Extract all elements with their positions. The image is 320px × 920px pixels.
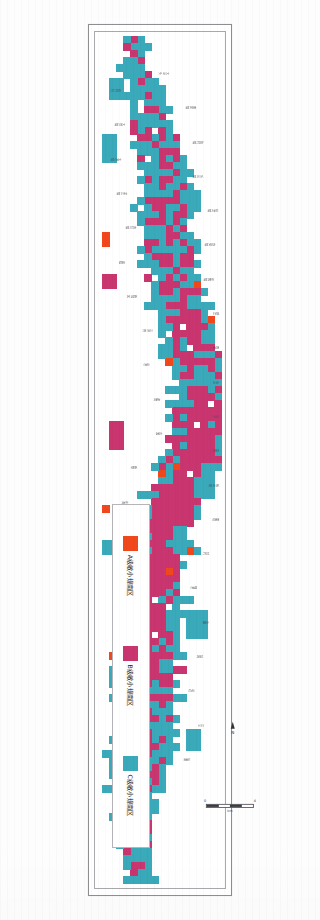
map-cell [102, 281, 110, 289]
map-cell [102, 750, 110, 758]
map-cell [165, 435, 173, 443]
map-cell [102, 547, 110, 555]
map-cell [144, 148, 152, 156]
map-cell [137, 260, 145, 268]
map-cell [144, 491, 152, 499]
map-cell [137, 491, 145, 499]
map-cell [137, 92, 145, 100]
map-cell [116, 64, 124, 72]
legend-label-grade-a: A级敏小规南区 [127, 555, 136, 597]
map-cell [137, 176, 145, 184]
map-place-label: 逢简 [154, 397, 161, 400]
map-cell [151, 785, 159, 793]
legend-item-grade-a: A级敏小规南区 [124, 536, 139, 597]
map-cell [165, 323, 173, 331]
map-legend: C级敏小规南区 B级敏小规南区 A级敏小规南区 [112, 504, 150, 848]
map-place-label: 容桂 [119, 260, 126, 263]
map-place-label: 沙滘 [143, 363, 150, 366]
map-cell [158, 785, 166, 793]
map-plot-area: 大沙头石井村南庄镇大良镇陈村镇北滘镇乐从镇龙江镇勒流镇杏坛镇均安镇容桂伦教镇新城… [98, 36, 175, 884]
map-cell [158, 351, 166, 359]
map-cell [137, 162, 145, 170]
map-cell [172, 372, 175, 380]
map-cell [151, 624, 159, 632]
map-place-label: 北滘镇 [111, 157, 121, 160]
map-cell [151, 806, 159, 814]
map-cell [144, 43, 152, 51]
legend-item-grade-b: B级敏小规南区 [124, 646, 139, 707]
map-cell [102, 239, 110, 247]
legend-item-grade-c: C级敏小规南区 [124, 756, 139, 817]
map-place-label: 三洪奇 [143, 328, 153, 331]
map-cell [165, 414, 173, 422]
map-cell [123, 71, 131, 79]
map-cell [151, 463, 159, 471]
map-cell [137, 218, 145, 226]
map-cell [130, 127, 138, 135]
map-cell [158, 330, 166, 338]
legend-swatch-grade-a [124, 536, 139, 551]
map-place-label: 东海 [121, 500, 128, 503]
map-cell [116, 442, 124, 450]
map-cell [151, 267, 159, 275]
page-canvas: 大沙头石井村南庄镇大良镇陈村镇北滘镇乐从镇龙江镇勒流镇杏坛镇均安镇容桂伦教镇新城… [0, 0, 175, 920]
legend-label-grade-c: C级敏小规南区 [127, 775, 136, 817]
map-cell [165, 596, 173, 604]
map-cell [144, 274, 152, 282]
map-cell [165, 106, 173, 114]
map-place-label: 新联 [130, 465, 137, 468]
legend-label-grade-b: B级敏小规南区 [127, 665, 136, 707]
map-cell [137, 876, 145, 884]
map-cell [123, 92, 131, 100]
map-cell [165, 386, 173, 394]
map-place-label: 龙江镇 [117, 191, 127, 194]
map-cell [137, 197, 145, 205]
map-place-label: 石井村 [111, 88, 121, 91]
map-cell [151, 876, 159, 884]
map-cell [165, 757, 173, 765]
map-cell [151, 302, 159, 310]
map-place-label: 新城区 [127, 294, 137, 297]
map-cell [130, 876, 138, 884]
map-cell [144, 260, 152, 268]
map-place-label: 大良镇 [115, 122, 125, 125]
map-cell [151, 589, 159, 597]
map-cell [109, 92, 117, 100]
map-cell [109, 442, 117, 450]
map-cell [102, 785, 110, 793]
map-cell [102, 155, 110, 163]
map-cell [123, 862, 131, 870]
map-cell [165, 358, 173, 366]
map-cell [165, 400, 173, 408]
map-cell [130, 141, 138, 149]
legend-swatch-grade-b [124, 646, 139, 661]
map-figure: 大沙头石井村南庄镇大良镇陈村镇北滘镇乐从镇龙江镇勒流镇杏坛镇均安镇容桂伦教镇新城… [85, 20, 175, 900]
map-cell [102, 505, 110, 513]
map-cell [144, 876, 152, 884]
map-place-label: 杏坛镇 [126, 225, 136, 228]
legend-swatch-grade-c [124, 756, 139, 771]
map-cell [123, 43, 131, 51]
map-cell [144, 302, 152, 310]
map-cell [109, 281, 117, 289]
map-cell [151, 120, 159, 128]
map-cell [130, 204, 138, 212]
map-place-label: 右滩 [155, 431, 162, 434]
map-place-label: 大沙头 [159, 71, 169, 74]
map-cell [123, 876, 131, 884]
map-cell [137, 246, 145, 254]
map-cell [116, 92, 124, 100]
